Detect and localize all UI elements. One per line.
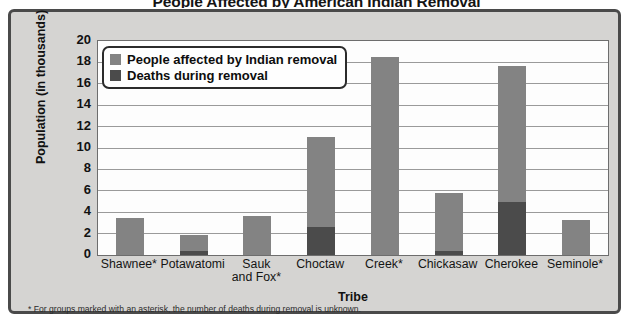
bar-group[interactable] <box>435 41 463 255</box>
y-axis-title: Population (in thousands) <box>34 0 48 187</box>
chart-title: People Affected by American Indian Remov… <box>0 0 633 8</box>
legend-label-deaths: Deaths during removal <box>127 68 268 83</box>
bar-segment-deaths[interactable] <box>307 227 335 255</box>
gridline <box>98 126 608 127</box>
bar-segment-deaths[interactable] <box>435 251 463 255</box>
gridline <box>98 233 608 234</box>
y-axis-tick-label: 10 <box>51 139 91 154</box>
gridline <box>98 105 608 106</box>
bar-segment-deaths[interactable] <box>498 202 526 256</box>
x-axis-tick-label: Seminole* <box>525 258 625 271</box>
gridline <box>98 169 608 170</box>
chart-figure: People Affected by American Indian Remov… <box>0 0 633 330</box>
legend-label-people-affected: People affected by Indian removal <box>127 52 337 67</box>
y-axis-tick-label: 2 <box>51 225 91 240</box>
chart-footnote: * For groups marked with an asterisk, th… <box>28 304 361 314</box>
legend-swatch-light <box>110 54 121 65</box>
bar-group[interactable] <box>498 41 526 255</box>
gridline <box>98 212 608 213</box>
legend-swatch-dark <box>110 70 121 81</box>
x-axis-title: Tribe <box>97 290 609 304</box>
bar-segment-people-affected[interactable] <box>116 218 144 255</box>
y-axis-tick-label: 14 <box>51 96 91 111</box>
y-axis-tick-label: 18 <box>51 53 91 68</box>
legend-item-people-affected: People affected by Indian removal <box>110 51 337 67</box>
y-axis-tick-label: 20 <box>51 32 91 47</box>
y-axis-tick-label: 6 <box>51 182 91 197</box>
y-axis-tick-label: 16 <box>51 75 91 90</box>
bar-segment-people-affected[interactable] <box>243 216 271 255</box>
chart-legend: People affected by Indian removal Deaths… <box>102 46 347 89</box>
gridline <box>98 148 608 149</box>
bar-segment-people-affected[interactable] <box>435 193 463 255</box>
y-axis-tick-label: 4 <box>51 203 91 218</box>
gridline <box>98 190 608 191</box>
bar-group[interactable] <box>371 41 399 255</box>
bar-segment-deaths[interactable] <box>180 251 208 255</box>
bar-segment-people-affected[interactable] <box>371 57 399 255</box>
bar-group[interactable] <box>562 41 590 255</box>
chart-panel: Population (in thousands) Tribe People a… <box>8 9 621 314</box>
legend-item-deaths: Deaths during removal <box>110 67 337 83</box>
y-axis-tick-label: 8 <box>51 160 91 175</box>
y-axis-tick-label: 12 <box>51 118 91 133</box>
bar-segment-people-affected[interactable] <box>562 220 590 255</box>
